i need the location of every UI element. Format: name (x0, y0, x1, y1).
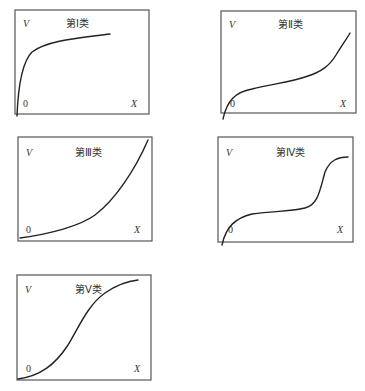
y-axis-label: V (25, 284, 33, 295)
origin-label: 0 (26, 363, 31, 374)
origin-label: 0 (23, 98, 28, 109)
x-axis-label: X (130, 98, 138, 109)
panel-title: 第Ⅳ类 (276, 146, 305, 158)
y-axis-label: V (229, 19, 237, 30)
isotherm-figure: V 第Ⅰ类 0 X V 第Ⅱ类 0 X V 第Ⅲ类 0 X V 第Ⅳ类 0 X … (0, 0, 365, 391)
panel-title: 第Ⅴ类 (75, 283, 102, 295)
x-axis-label: X (133, 224, 141, 235)
panel-type-2: V 第Ⅱ类 0 X (221, 11, 356, 119)
isotherm-curve (223, 33, 350, 119)
isotherm-curve (17, 34, 110, 116)
x-axis-label: X (133, 363, 141, 374)
panel-type-3: V 第Ⅲ类 0 X (18, 137, 152, 241)
y-axis-label: V (26, 147, 34, 158)
panel-type-1: V 第Ⅰ类 0 X (15, 10, 149, 116)
panel-title: 第Ⅰ类 (66, 17, 89, 29)
panel-title: 第Ⅲ类 (75, 146, 102, 158)
x-axis-label: X (336, 224, 344, 235)
panel-type-4: V 第Ⅳ类 0 X (218, 137, 353, 245)
y-axis-label: V (23, 18, 31, 29)
origin-label: 0 (26, 224, 31, 235)
y-axis-label: V (226, 147, 234, 158)
isotherm-curve (222, 157, 348, 245)
panel-type-5: V 第Ⅴ类 0 X (17, 275, 151, 380)
panel-title: 第Ⅱ类 (278, 18, 303, 30)
x-axis-label: X (339, 98, 347, 109)
